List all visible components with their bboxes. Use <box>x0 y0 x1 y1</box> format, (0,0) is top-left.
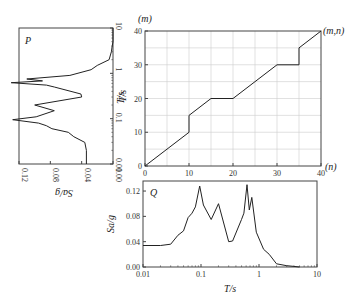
n-label: (n) <box>325 161 337 173</box>
mapping-xtick-label: 40 <box>317 169 325 178</box>
mapping-ticks: 001010202030304040T/s <box>115 27 325 178</box>
mapping-ylabel: T/s <box>115 92 126 104</box>
p-title: P <box>24 35 31 46</box>
q-ytick-label: 0.00 <box>126 263 140 272</box>
figure: 0.120.080.040.000.010.1110 P Sa/g T/s 00… <box>0 0 359 300</box>
p-xtick-label: 0.04 <box>83 168 92 182</box>
mapping-ytick-label: 30 <box>134 61 142 70</box>
mapping-xtick-label: 0 <box>143 169 147 178</box>
p-ticks: 0.120.080.040.000.010.1110 <box>19 22 123 182</box>
mapping-xtick-label: 30 <box>273 169 281 178</box>
q-ylabel: Sa/g <box>105 215 116 233</box>
p-xtick-label: 0.12 <box>20 168 29 182</box>
mapping-xtick-label: 10 <box>185 169 193 178</box>
q-xtick-label: 0.1 <box>196 270 206 279</box>
mapping-panel: 001010202030304040T/s (m) (m,n) (n) <box>115 13 345 178</box>
mapping-ytick-label: 40 <box>134 27 142 36</box>
q-frame <box>143 181 317 267</box>
p-xtick-label: 0.08 <box>51 168 60 182</box>
mn-label: (m,n) <box>323 25 345 37</box>
mapping-ytick-label: 10 <box>134 128 142 137</box>
p-ytick-label: 0.1 <box>114 113 123 123</box>
mapping-ytick-label: 0 <box>138 162 142 171</box>
mapping-xtick-label: 20 <box>229 169 237 178</box>
p-frame <box>19 28 113 164</box>
q-ytick-label: 0.08 <box>126 212 140 221</box>
p-curve <box>11 28 113 164</box>
q-xlabel: T/s <box>224 283 236 294</box>
q-curve <box>143 185 300 267</box>
q-ticks: 0.010.11100.000.040.080.12 <box>126 187 321 279</box>
p-panel: 0.120.080.040.000.010.1110 P Sa/g T/s <box>11 22 128 199</box>
p-ytick-label: 10 <box>114 22 123 30</box>
p-ytick-label: 1 <box>114 67 123 71</box>
q-ytick-label: 0.12 <box>126 187 140 196</box>
q-xtick-label: 1 <box>257 270 261 279</box>
m-label: (m) <box>138 13 153 25</box>
q-panel: 0.010.11100.000.040.080.12 Q T/s Sa/g <box>105 181 321 294</box>
mapping-ytick-label: 20 <box>134 95 142 104</box>
q-title: Q <box>150 187 158 198</box>
p-xlabel: Sa/g <box>55 188 73 199</box>
q-xtick-label: 10 <box>313 270 321 279</box>
p-ytick-label: 0.01 <box>114 158 123 172</box>
q-ytick-label: 0.04 <box>126 238 140 247</box>
